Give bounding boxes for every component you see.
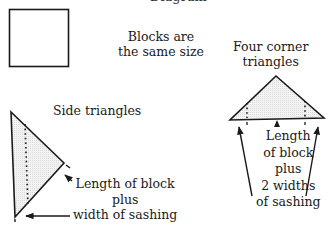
corner-measure-line: Length (256, 128, 321, 145)
side-measure-label: Length of block plus width of sashing (73, 176, 177, 223)
side-arrow-length (65, 175, 72, 181)
block-label: Blocks are the same size (118, 29, 204, 59)
corner-measure-line: 2 widths (256, 178, 321, 195)
corner-triangle (230, 76, 324, 125)
corner-label: Four corner triangles (233, 39, 308, 69)
block-label-line: Blocks are (118, 29, 204, 44)
corner-arrow-center (274, 120, 280, 127)
corner-label-line: Four corner (233, 39, 308, 54)
side-measure-line: plus (73, 192, 177, 208)
corner-arrow-left (239, 127, 252, 196)
block-square (10, 10, 69, 67)
corner-measure-line: plus (256, 161, 321, 178)
block-label-line: the same size (118, 44, 204, 59)
side-triangle (11, 112, 70, 222)
side-measure-line: width of sashing (73, 207, 177, 223)
corner-measure-label: Length of block plus 2 widths of sashing (256, 128, 321, 211)
corner-measure-line: of block (256, 145, 321, 162)
side-label: Side triangles (53, 103, 141, 118)
corner-label-line: triangles (233, 54, 308, 69)
corner-measure-line: of sashing (256, 194, 321, 211)
side-measure-line: Length of block (73, 176, 177, 192)
